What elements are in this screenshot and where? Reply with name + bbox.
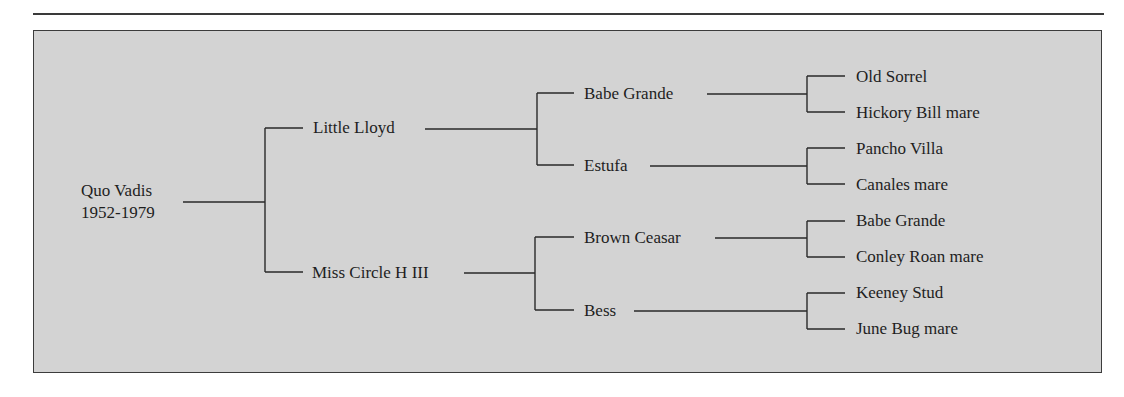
- horse-sire: Little Lloyd: [313, 118, 395, 138]
- horse-dam-sire: Brown Ceasar: [584, 228, 681, 248]
- horse-dam-sire-dam: Conley Roan mare: [856, 247, 983, 267]
- horse-sire-sire-dam: Hickory Bill mare: [856, 103, 980, 123]
- horse-sire-dam-sire: Pancho Villa: [856, 139, 943, 159]
- horse-dam-dam: Bess: [584, 301, 616, 321]
- top-rule: [33, 13, 1104, 15]
- horse-dam-dam-sire: Keeney Stud: [856, 283, 943, 303]
- horse-root-years: 1952-1979: [81, 202, 155, 223]
- horse-sire-dam: Estufa: [584, 156, 627, 176]
- horse-dam: Miss Circle H III: [312, 263, 429, 283]
- horse-sire-sire-sire: Old Sorrel: [856, 67, 927, 87]
- horse-root-name: Quo Vadis: [81, 180, 152, 201]
- horse-dam-dam-dam: June Bug mare: [856, 319, 958, 339]
- horse-sire-sire: Babe Grande: [584, 84, 673, 104]
- horse-sire-dam-dam: Canales mare: [856, 175, 948, 195]
- horse-dam-sire-sire: Babe Grande: [856, 211, 945, 231]
